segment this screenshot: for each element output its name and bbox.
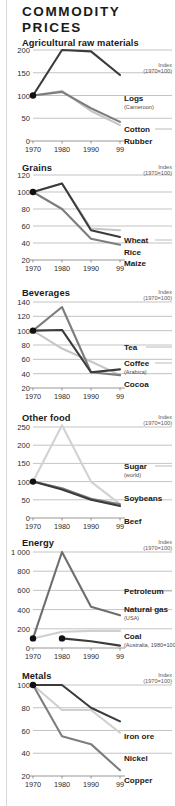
series-label-text: Cotton: [124, 125, 150, 134]
series-label-text: Copper: [124, 776, 152, 785]
index-note-grains: Index(1970=100): [143, 164, 172, 177]
x-tick-label: 99: [116, 780, 124, 789]
x-tick-label: 99: [116, 264, 124, 273]
series-label-text: Cocoa: [124, 380, 149, 389]
page-title: COMMODITY PRICES: [22, 4, 172, 35]
series-label-nickel: Nickel: [124, 755, 148, 764]
y-tick-label: 800: [0, 567, 30, 576]
series-label-soybeans: Soybeans: [124, 495, 162, 504]
series-line-cotton: [33, 92, 120, 122]
series-label-tea: Tea: [124, 344, 137, 353]
series-label-text: Natural gas: [124, 605, 168, 614]
x-tick-label: 1980: [54, 780, 70, 789]
series-label-text: Wheat: [124, 236, 148, 245]
series-line-rubber: [33, 91, 120, 125]
x-tick-label: 1980: [54, 652, 70, 661]
x-tick-label: 1990: [83, 522, 99, 531]
series-label-natural-gas: Natural gas(USA): [124, 606, 168, 621]
x-tick-label: 1970: [25, 780, 41, 789]
chart-title-metals: Metals: [22, 671, 52, 681]
y-tick-label: 40: [0, 749, 30, 758]
x-tick-label: 1980: [54, 392, 70, 401]
index-note-agricultural-raw-materials: Index(1970=100): [143, 62, 172, 75]
y-tick-label: 200: [0, 624, 30, 633]
y-tick-label: 100: [0, 681, 30, 690]
chart-title-beverages: Beverages: [22, 288, 70, 298]
series-line-maize: [33, 192, 120, 245]
y-tick-label: 200: [0, 46, 30, 55]
series-line-tea: [33, 307, 120, 375]
chart-title-energy: Energy: [22, 538, 54, 548]
y-tick-label: 100: [0, 326, 30, 335]
x-tick-label: 99: [116, 145, 124, 154]
x-tick-label: 1970: [25, 392, 41, 401]
series-label-text: Soybeans: [124, 494, 162, 503]
series-label-text: Petroleum: [124, 587, 164, 596]
chart-panel-energy: EnergyIndex(1970=100)02004006008001 0001…: [0, 538, 175, 668]
x-tick-label: 1990: [83, 145, 99, 154]
y-tick-label: 250: [0, 423, 30, 432]
series-label-rice: Rice: [124, 249, 141, 258]
x-tick-label: 1990: [83, 780, 99, 789]
y-tick-label: 50: [0, 495, 30, 504]
commodity-prices-infographic: COMMODITY PRICES Agricultural raw materi…: [0, 0, 175, 806]
x-tick-label: 1970: [25, 652, 41, 661]
series-start-marker: [30, 478, 36, 484]
series-start-marker: [30, 682, 36, 688]
x-tick-label: 1990: [83, 392, 99, 401]
series-label-text: Tea: [124, 343, 137, 352]
series-label-petroleum: Petroleum: [124, 588, 164, 597]
x-tick-label: 1980: [54, 264, 70, 273]
y-tick-label: 80: [0, 341, 30, 350]
y-tick-label: 60: [0, 726, 30, 735]
chart-panel-other-food: Other foodIndex(1970=100)050100150200250…: [0, 413, 175, 535]
series-start-marker: [30, 327, 36, 333]
y-tick-label: 150: [0, 459, 30, 468]
series-label-text: Sugar: [124, 462, 147, 471]
series-label-sub: (USA): [124, 615, 168, 621]
series-label-cotton: Cotton: [124, 126, 150, 135]
x-tick-label: 1970: [25, 522, 41, 531]
series-start-marker: [30, 189, 36, 195]
series-label-maize: Maize: [124, 260, 146, 269]
y-tick-label: 40: [0, 369, 30, 378]
series-label-rubber: Rubber: [124, 138, 152, 147]
index-note-energy: Index(1970=100): [143, 539, 172, 552]
y-tick-label: 50: [0, 114, 30, 123]
y-tick-label: 60: [0, 222, 30, 231]
x-tick-label: 1990: [83, 652, 99, 661]
y-tick-label: 120: [0, 312, 30, 321]
index-note-other-food: Index(1970=100): [143, 414, 172, 427]
series-label-sub: (Arabica): [124, 369, 149, 375]
x-tick-label: 99: [116, 652, 124, 661]
series-label-sub: (Australia, 1980=100): [124, 642, 175, 648]
index-note-metals: Index(1970=100): [143, 672, 172, 685]
y-tick-label: 80: [0, 703, 30, 712]
y-tick-label: 100: [0, 477, 30, 486]
series-label-text: Coffee: [124, 359, 149, 368]
series-start-marker: [30, 635, 36, 641]
series-label-wheat: Wheat: [124, 237, 148, 246]
series-label-text: Iron ore: [124, 732, 154, 741]
series-label-text: Beef: [124, 517, 142, 526]
chart-panel-agricultural-raw-materials: Agricultural raw materialsIndex(1970=100…: [0, 38, 175, 160]
y-tick-label: 600: [0, 586, 30, 595]
series-line-copper: [33, 685, 120, 770]
x-tick-label: 1980: [54, 145, 70, 154]
series-label-beef: Beef: [124, 518, 142, 527]
series-label-sugar: Sugar(world): [124, 463, 147, 478]
series-start-marker: [30, 92, 36, 98]
series-label-copper: Copper: [124, 777, 152, 786]
chart-panel-grains: GrainsIndex(1970=100)2040608010012019701…: [0, 163, 175, 285]
y-tick-label: 140: [0, 298, 30, 307]
y-tick-label: 400: [0, 605, 30, 614]
series-line-natural-gas: [33, 631, 120, 638]
y-tick-label: 80: [0, 205, 30, 214]
index-note-beverages: Index(1970=100): [143, 289, 172, 302]
x-tick-label: 1970: [25, 145, 41, 154]
chart-panel-metals: MetalsIndex(1970=100)2040608010019701980…: [0, 671, 175, 797]
series-label-cocoa: Cocoa: [124, 381, 149, 390]
chart-title-other-food: Other food: [22, 413, 71, 423]
series-line-coffee: [33, 330, 120, 372]
x-tick-label: 1990: [83, 264, 99, 273]
